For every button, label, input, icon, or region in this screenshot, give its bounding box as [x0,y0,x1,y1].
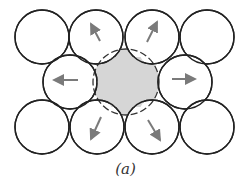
close-packed-circles-diagram [0,0,251,184]
figure-caption: (a) [0,160,251,178]
